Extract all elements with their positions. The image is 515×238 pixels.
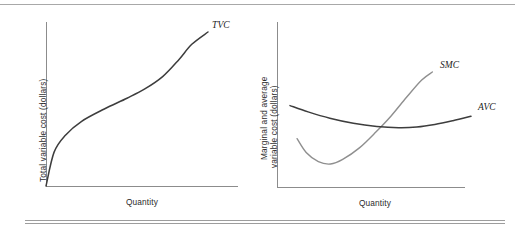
- curve-smc: [297, 72, 432, 164]
- bottom-divider-rule-upper: [25, 220, 505, 221]
- curve-label-smc: SMC: [440, 60, 459, 70]
- curve-avc: [290, 106, 471, 128]
- bottom-divider-rule-lower: [25, 223, 505, 224]
- chart-panel-total-variable-cost: Total variable cost (dollars) Quantity T…: [0, 0, 258, 238]
- right-panel-curve-layer: [257, 0, 515, 238]
- curve-label-tvc: TVC: [212, 20, 230, 30]
- chart-panel-marginal-average-cost: Marginal and average variable cost (doll…: [257, 0, 515, 238]
- left-panel-curve-layer: [0, 0, 258, 238]
- figure-economics-cost-curves: Total variable cost (dollars) Quantity T…: [0, 0, 515, 238]
- curve-label-avc: AVC: [478, 102, 496, 112]
- curve-tvc: [46, 32, 208, 186]
